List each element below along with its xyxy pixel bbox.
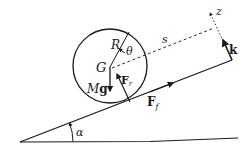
label-alpha: α	[76, 126, 84, 139]
label-reaction-force: Fr	[121, 74, 133, 88]
alpha-arc	[70, 123, 74, 142]
friction-force-arrow	[150, 83, 173, 92]
label-axis-z: z	[215, 5, 222, 18]
label-unit-vector-k: k	[229, 43, 238, 57]
label-friction-sub: f	[155, 102, 161, 111]
label-theta: θ	[126, 45, 133, 58]
label-weight-g: g	[99, 82, 108, 96]
label-radius: R	[110, 38, 120, 52]
label-distance-s: s	[162, 33, 168, 46]
label-weight: Mg	[86, 82, 108, 96]
incline-surface	[20, 60, 232, 142]
label-friction-force: Ff	[147, 95, 161, 111]
label-center-g: G	[96, 60, 106, 75]
label-reaction-sub: r	[129, 80, 133, 88]
label-reaction-f: F	[121, 74, 129, 87]
ground-line	[20, 138, 238, 142]
incline-diagram: R θ G Mg Fr Ff s z k α	[0, 0, 252, 154]
label-weight-m: M	[86, 82, 100, 96]
